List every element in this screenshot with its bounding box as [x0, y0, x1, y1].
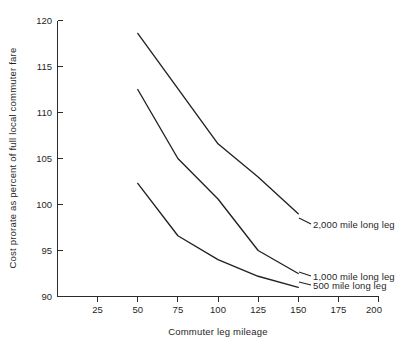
series-label-2000: 2,000 mile long leg	[313, 219, 395, 230]
series-label-500: 500 mile long leg	[313, 280, 387, 291]
y-tick-label-95: 95	[41, 245, 52, 256]
x-tick-label-25: 25	[92, 304, 103, 315]
y-tick-label-90: 90	[41, 291, 52, 302]
leader-line-2000	[299, 218, 311, 224]
x-tick-label-50: 50	[133, 304, 144, 315]
series-line-1000	[138, 90, 299, 274]
x-tick-label-175: 175	[330, 304, 346, 315]
line-chart: Cost prorate as percent of full local co…	[0, 0, 399, 350]
figure-container: Cost prorate as percent of full local co…	[0, 0, 399, 350]
y-axis-ticks	[58, 21, 63, 297]
y-tick-label-110: 110	[37, 107, 52, 118]
x-tick-label-200: 200	[366, 304, 382, 315]
leader-line-1000	[299, 272, 311, 276]
y-tick-label-120: 120	[36, 15, 52, 26]
y-tick-label-115: 115	[37, 61, 52, 72]
y-tick-label-105: 105	[36, 153, 52, 164]
y-tick-label-100: 100	[36, 199, 52, 210]
x-axis-ticks	[98, 297, 379, 302]
y-axis-title: Cost prorate as percent of full local co…	[7, 48, 18, 269]
x-tick-label-150: 150	[290, 304, 306, 315]
x-tick-label-100: 100	[210, 304, 226, 315]
leader-line-500	[299, 282, 311, 285]
x-tick-label-75: 75	[173, 304, 184, 315]
series-line-2000	[138, 33, 299, 213]
x-tick-label-125: 125	[250, 304, 266, 315]
figure-caption	[14, 330, 384, 346]
